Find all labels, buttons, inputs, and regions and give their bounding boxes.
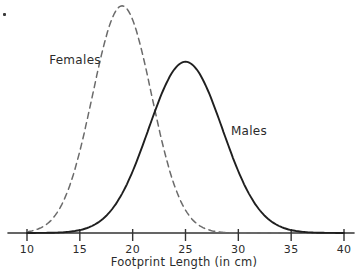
males-curve <box>27 62 344 233</box>
males-label: Males <box>231 124 267 138</box>
distribution-chart: 10152025303540 Females Males Footprint L… <box>0 0 362 272</box>
females-curve <box>27 6 344 233</box>
chart-svg: 10152025303540 Females Males Footprint L… <box>0 0 362 272</box>
x-axis-title: Footprint Length (in cm) <box>111 255 258 269</box>
x-tick-label: 40 <box>337 243 352 256</box>
stray-mark-dot <box>3 13 6 16</box>
x-tick-label: 15 <box>73 243 88 256</box>
x-tick-label: 10 <box>20 243 35 256</box>
x-tick-label: 35 <box>284 243 299 256</box>
females-label: Females <box>49 53 101 67</box>
